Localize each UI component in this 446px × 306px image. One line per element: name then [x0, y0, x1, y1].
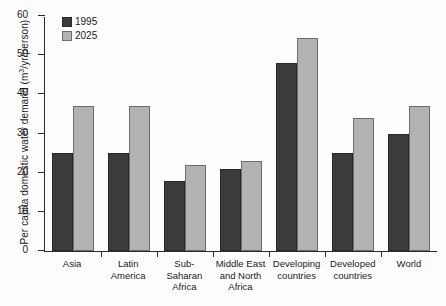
y-tick-label-20: 20: [17, 166, 28, 177]
x-axis-label-line: Developed: [326, 258, 380, 270]
x-axis-label-3: Middle Eastand NorthAfrica: [212, 258, 268, 293]
bar-1995-developing-countries: [276, 63, 297, 251]
y-tick-60: 60: [38, 15, 45, 16]
bar-1995-latin-america: [108, 153, 129, 251]
bar-2025-developing-countries: [297, 38, 318, 251]
y-axis-title-superscript: 3: [18, 69, 25, 73]
x-axis-label-line: Sub-Saharan: [157, 258, 211, 281]
x-tick-2: [157, 251, 158, 257]
x-tick-4: [269, 251, 270, 257]
y-tick-10: 10: [38, 211, 45, 212]
x-axis-labels: AsiaLatinAmericaSub-SaharanAfricaMiddle …: [44, 258, 437, 293]
y-tick-40: 40: [38, 93, 45, 94]
bar-1995-sub-saharan-africa: [164, 181, 185, 252]
bar-group: [45, 17, 101, 251]
x-axis-label-6: World: [381, 258, 437, 293]
legend-label-2025: 2025: [75, 30, 97, 41]
x-axis-label-line: countries: [270, 270, 324, 282]
x-axis-label-2: Sub-SaharanAfrica: [156, 258, 212, 293]
y-tick-label-30: 30: [17, 127, 28, 138]
x-tick-5: [325, 251, 326, 257]
chart-legend: 1995 2025: [62, 16, 97, 44]
x-axis-label-line: countries: [326, 270, 380, 282]
x-axis-label-line: Africa: [157, 281, 211, 293]
y-tick-30: 30: [38, 133, 45, 134]
y-axis-title-suffix: /yr/person): [19, 20, 30, 69]
x-axis-label-4: Developingcountries: [269, 258, 325, 293]
bar-2025-latin-america: [129, 106, 150, 251]
y-tick-label-0: 0: [22, 244, 28, 255]
bar-group: [101, 17, 157, 251]
x-tick-1: [101, 251, 102, 257]
plot-area: 0102030405060: [44, 17, 437, 252]
x-axis-label-line: Africa: [213, 281, 267, 293]
y-tick-label-60: 60: [17, 9, 28, 20]
y-tick-label-50: 50: [17, 48, 28, 59]
x-tick-3: [213, 251, 214, 257]
y-tick-label-10: 10: [17, 205, 28, 216]
x-axis-label-line: America: [101, 270, 155, 282]
bar-1995-developed-countries: [332, 153, 353, 251]
bar-2025-developed-countries: [353, 118, 374, 251]
bar-group: [325, 17, 381, 251]
bar-chart: Per capita domestic water demand (m3/yr/…: [0, 0, 446, 306]
x-axis-label-line: Middle East: [213, 258, 267, 270]
bar-group: [157, 17, 213, 251]
x-tick-6: [381, 251, 382, 257]
legend-item-1995: 1995: [62, 16, 97, 27]
x-axis-label-line: Asia: [45, 258, 99, 270]
legend-swatch-2025: [62, 31, 72, 41]
y-tick-0: 0: [38, 250, 45, 251]
bar-group: [269, 17, 325, 251]
x-axis-label-0: Asia: [44, 258, 100, 293]
x-axis-label-5: Developedcountries: [325, 258, 381, 293]
bar-2025-asia: [73, 106, 94, 251]
y-tick-50: 50: [38, 54, 45, 55]
y-tick-label-40: 40: [17, 87, 28, 98]
x-axis-label-1: LatinAmerica: [100, 258, 156, 293]
y-axis-title-prefix: Per capita domestic water demand (m: [19, 73, 30, 245]
bar-1995-asia: [52, 153, 73, 251]
y-tick-20: 20: [38, 172, 45, 173]
x-axis-label-line: Developing: [270, 258, 324, 270]
x-axis-label-line: World: [382, 258, 436, 270]
bar-2025-middle-east-and-north-africa: [241, 161, 262, 251]
bar-2025-sub-saharan-africa: [185, 165, 206, 251]
legend-swatch-1995: [62, 17, 72, 27]
bar-group: [381, 17, 437, 251]
x-axis-label-line: Latin: [101, 258, 155, 270]
bar-group: [213, 17, 269, 251]
bar-groups: [45, 17, 437, 251]
legend-label-1995: 1995: [75, 16, 97, 27]
bar-1995-middle-east-and-north-africa: [220, 169, 241, 251]
bar-1995-world: [388, 134, 409, 252]
x-axis-label-line: and North: [213, 270, 267, 282]
legend-item-2025: 2025: [62, 30, 97, 41]
bar-2025-world: [409, 106, 430, 251]
